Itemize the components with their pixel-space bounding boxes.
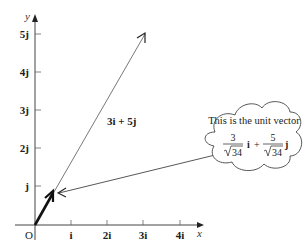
x-tick-4i: 4i (176, 229, 185, 241)
x-tick-2i: 2i (103, 229, 112, 241)
term1-numerator: 3 (231, 132, 236, 143)
term1-unit: i (247, 139, 250, 150)
callout-cloud: This is the unit vector 3 34 i + 5 34 j (205, 102, 302, 171)
plus-sign: + (254, 139, 260, 150)
term2-denominator: 34 (272, 147, 282, 158)
vector-label: 3i + 5j (107, 115, 137, 127)
y-tick-2j: 2j (20, 142, 29, 154)
term1-denominator: 34 (232, 147, 242, 158)
callout-pointer (58, 155, 215, 197)
unit-vector-diagram: i 2i 3i 4i x j 2j 3j 4j 5j y O 3i + 5j (0, 0, 305, 249)
y-tick-5j: 5j (20, 28, 29, 40)
x-axis-label: x (196, 227, 202, 239)
y-axis: j 2j 3j 4j 5j y O (20, 10, 41, 241)
term2-numerator: 5 (271, 132, 276, 143)
y-tick-3j: 3j (20, 104, 29, 116)
term2-unit: j (284, 139, 288, 150)
unit-vector (35, 191, 53, 225)
y-axis-arrow-icon (32, 14, 38, 22)
y-tick-4j: 4j (20, 66, 29, 78)
origin-label: O (25, 229, 33, 241)
y-tick-j: j (24, 180, 29, 192)
x-axis: i 2i 3i 4i x (15, 220, 204, 241)
y-axis-label: y (24, 10, 30, 22)
x-tick-3i: 3i (139, 229, 148, 241)
callout-text: This is the unit vector (208, 115, 300, 126)
x-tick-i: i (69, 229, 72, 241)
